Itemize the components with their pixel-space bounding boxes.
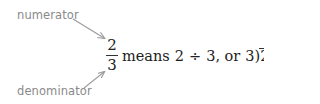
- denominator-arrow-icon: [84, 72, 104, 88]
- fraction-numerator: 2: [106, 38, 118, 54]
- means-text: means: [122, 49, 170, 64]
- long-division: 3)2: [245, 48, 264, 64]
- dividend: 2: [175, 49, 184, 64]
- fraction: 2 3: [106, 38, 118, 74]
- numerator-arrow-icon: [73, 19, 104, 38]
- longdiv-dividend: 2: [259, 48, 264, 64]
- divisor: 3: [206, 49, 215, 64]
- longdiv-divisor: 3: [245, 49, 254, 64]
- fraction-denominator: 3: [106, 58, 118, 74]
- comma-or-text: , or: [215, 49, 240, 64]
- expression: means2÷3, or3)2.: [122, 48, 264, 64]
- divide-symbol: ÷: [189, 49, 201, 64]
